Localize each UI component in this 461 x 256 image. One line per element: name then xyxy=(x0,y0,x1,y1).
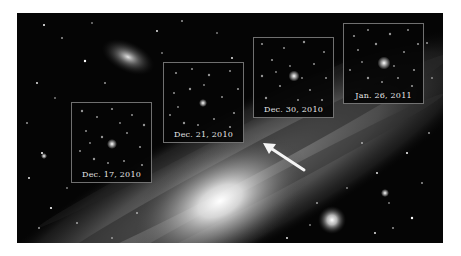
andromeda-photo: Dec. 17, 2010 Dec. 21, 2010 Dec. 30, 201… xyxy=(17,13,443,243)
arrow-pointer-icon xyxy=(17,13,443,243)
